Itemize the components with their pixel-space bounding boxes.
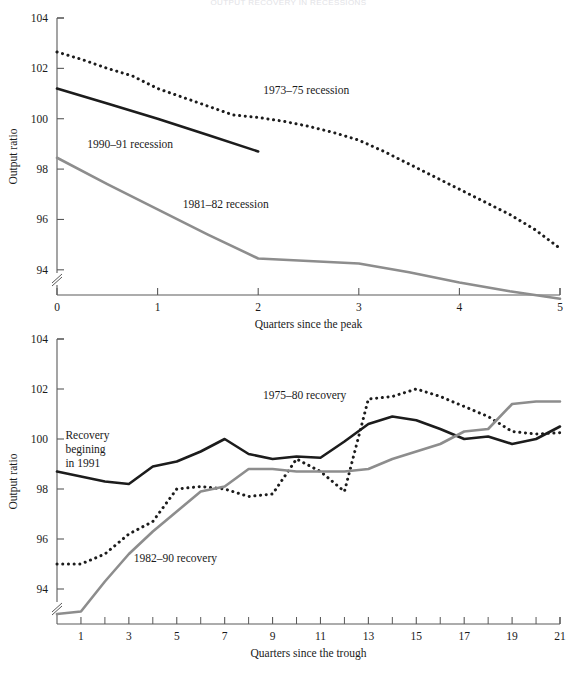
y-tick-label: 102 [31, 62, 49, 74]
x-tick-label: 17 [458, 630, 470, 642]
series-annotation-2: begining [65, 443, 105, 456]
series-line-1 [57, 389, 560, 564]
y-tick-label: 104 [31, 12, 49, 24]
y-tick-label: 100 [31, 433, 49, 445]
series-annotation-2: in 1991 [65, 457, 100, 469]
series-annotation-2: 1990–91 recession [87, 138, 173, 150]
x-tick-label: 0 [54, 301, 60, 313]
x-tick-label: 5 [557, 301, 563, 313]
y-tick-label: 98 [37, 163, 49, 175]
y-tick-label: 98 [37, 483, 49, 495]
y-tick-label: 100 [31, 113, 49, 125]
x-tick-label: 5 [174, 630, 180, 642]
series-line-2 [57, 417, 560, 485]
y-tick-label: 104 [31, 333, 49, 345]
chart-output-recovery-recessions: 949698100102104012345Quarters since the … [0, 0, 577, 335]
chart-output-recovery-recoveries: 94969810010210413579111315171921Quarters… [0, 324, 577, 679]
x-tick-label: 13 [363, 630, 375, 642]
y-tick-label: 102 [31, 383, 49, 395]
y-tick-label: 94 [37, 583, 49, 595]
y-tick-label: 96 [37, 213, 49, 225]
y-axis-title: Output ratio [7, 453, 20, 509]
x-axis-title: Quarters since the trough [251, 647, 367, 660]
y-axis-title: Output ratio [7, 128, 20, 184]
x-tick-label: 15 [411, 630, 423, 642]
series-line-1 [57, 52, 560, 248]
x-tick-label: 2 [255, 301, 261, 313]
x-tick-label: 3 [356, 301, 362, 313]
x-tick-label: 11 [315, 630, 326, 642]
figure-container: OUTPUT RECOVERY IN RECESSIONS 9496981001… [0, 0, 577, 679]
series-annotation-3: 1981–82 recession [183, 198, 269, 210]
x-tick-label: 9 [270, 630, 276, 642]
x-tick-label: 3 [126, 630, 132, 642]
y-tick-label: 94 [37, 264, 49, 276]
y-axis-break-icon [52, 274, 62, 286]
series-annotation-1: 1973–75 recession [263, 84, 349, 96]
x-tick-label: 7 [222, 630, 228, 642]
y-tick-label: 96 [37, 533, 49, 545]
x-tick-label: 1 [78, 630, 84, 642]
series-annotation-2: Recovery [65, 429, 109, 442]
series-line-3 [57, 158, 560, 299]
series-annotation-1: 1975–80 recovery [263, 389, 347, 402]
x-tick-label: 4 [457, 301, 463, 313]
x-tick-label: 1 [155, 301, 161, 313]
series-line-3 [57, 402, 560, 615]
series-annotation-3: 1982–90 recovery [134, 552, 218, 565]
x-tick-label: 21 [554, 630, 566, 642]
x-tick-label: 19 [506, 630, 518, 642]
